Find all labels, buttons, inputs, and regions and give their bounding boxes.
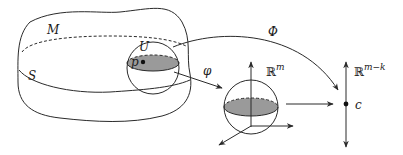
label-m: M [46, 23, 60, 37]
label-s: S [28, 69, 36, 83]
label-rmk-exp: m−k [364, 62, 386, 72]
submanifold-chart-diagram: M S U p Φ φ ℝ m ℝ m−k c [0, 0, 403, 155]
label-rm-exp: m [276, 62, 285, 72]
submanifold-hidden-edge [22, 36, 186, 52]
label-u: U [139, 40, 150, 54]
arrow-phi-global [173, 36, 338, 90]
arrow-phi-chart [174, 72, 222, 88]
submanifold-front-edge [19, 70, 190, 92]
label-phi-chart: φ [203, 64, 212, 78]
point-c [344, 102, 349, 107]
label-p: p [131, 55, 139, 69]
euclidean-ball [219, 62, 293, 145]
point-p [141, 60, 145, 64]
label-c: c [355, 98, 362, 112]
label-phi-global: Φ [268, 25, 278, 39]
